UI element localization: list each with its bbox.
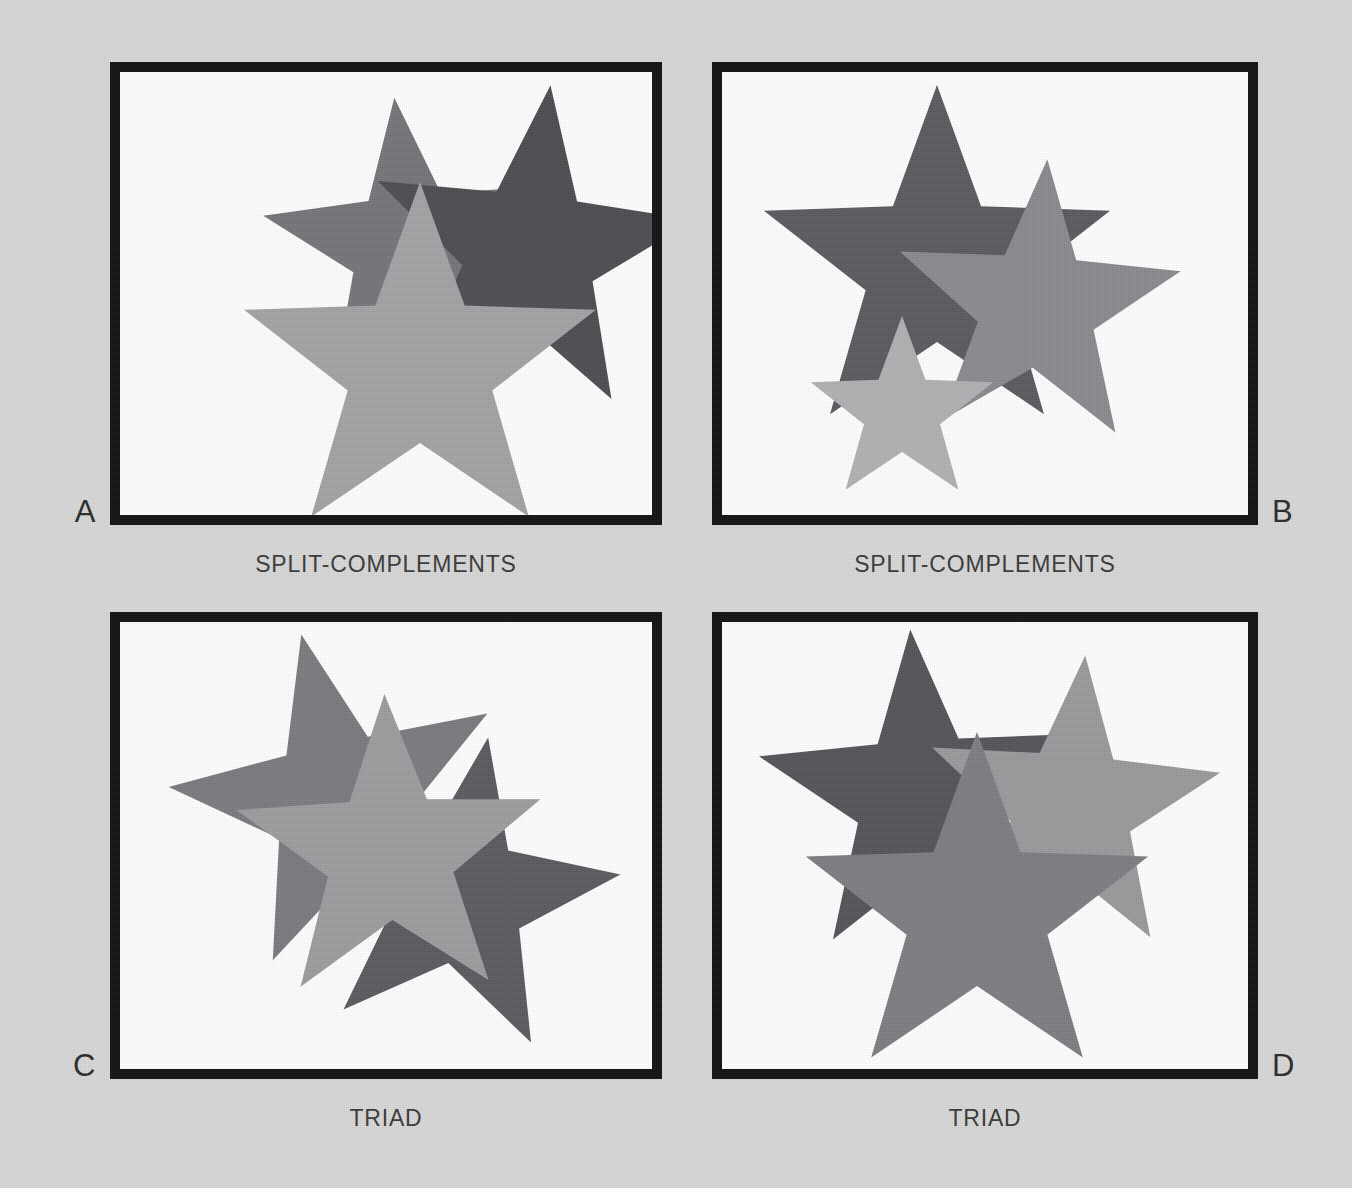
plate-a-frame (110, 62, 662, 525)
plate-grid: A SPLIT-COMPLEMENTS B SPLIT-COMPLEMENTS … (0, 0, 1352, 1188)
plate-d-frame (712, 612, 1258, 1079)
plate-d-artwork (722, 622, 1248, 1069)
plate-d-caption: TRIAD (712, 1105, 1258, 1132)
plate-b-caption: SPLIT-COMPLEMENTS (712, 551, 1258, 578)
plate-a: A SPLIT-COMPLEMENTS (110, 62, 662, 525)
plate-d: D TRIAD (712, 612, 1258, 1079)
plate-b: B SPLIT-COMPLEMENTS (712, 62, 1258, 525)
plate-c-caption: TRIAD (110, 1105, 662, 1132)
plate-c-frame (110, 612, 662, 1079)
plate-b-artwork (722, 72, 1248, 515)
plate-c-letter: C (73, 1050, 96, 1081)
plate-a-caption: SPLIT-COMPLEMENTS (110, 551, 662, 578)
plate-c-artwork (120, 622, 652, 1069)
plate-b-letter: B (1272, 496, 1293, 527)
plate-b-frame (712, 62, 1258, 525)
plate-c: C TRIAD (110, 612, 662, 1079)
plate-a-letter: A (75, 496, 96, 527)
plate-a-artwork (120, 72, 652, 515)
plate-d-letter: D (1272, 1050, 1295, 1081)
